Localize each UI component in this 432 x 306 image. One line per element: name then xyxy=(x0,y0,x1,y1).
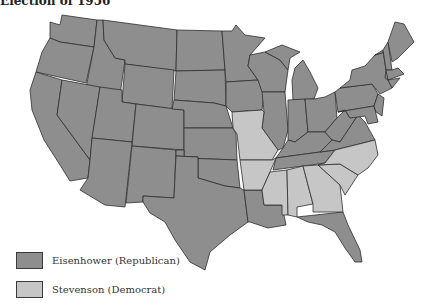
republican-states xyxy=(30,15,414,270)
state-massachusetts xyxy=(386,68,404,80)
legend-label-republican: Eisenhower (Republican) xyxy=(52,255,180,266)
state-colorado xyxy=(132,104,184,150)
swatch-republican xyxy=(16,252,43,269)
swatch-democrat xyxy=(16,281,43,298)
state-wyoming xyxy=(122,64,174,109)
state-florida xyxy=(297,212,362,262)
legend: Eisenhower (Republican) Stevenson (Democ… xyxy=(16,250,180,306)
state-new-mexico xyxy=(126,146,176,203)
state-north-dakota xyxy=(176,30,225,71)
legend-item-republican: Eisenhower (Republican) xyxy=(16,250,180,270)
legend-label-democrat: Stevenson (Democrat) xyxy=(52,284,165,295)
state-kansas xyxy=(184,128,237,160)
legend-item-democrat: Stevenson (Democrat) xyxy=(16,279,180,299)
state-maine xyxy=(388,22,414,62)
state-iowa xyxy=(226,80,264,112)
